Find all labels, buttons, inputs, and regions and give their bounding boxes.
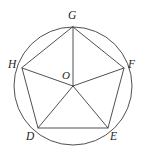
radius-O-E [73, 86, 108, 128]
vertex-label-H: H [8, 59, 16, 71]
vertex-label-E: E [110, 131, 117, 143]
figure-canvas [0, 0, 147, 152]
geometry-figure: G F E D H O [0, 0, 147, 152]
radius-O-F [73, 68, 124, 86]
vertex-label-G: G [68, 10, 76, 22]
radius-O-D [38, 86, 73, 128]
vertex-label-D: D [26, 131, 34, 143]
center-label-O: O [62, 70, 70, 81]
vertex-label-F: F [128, 59, 135, 71]
